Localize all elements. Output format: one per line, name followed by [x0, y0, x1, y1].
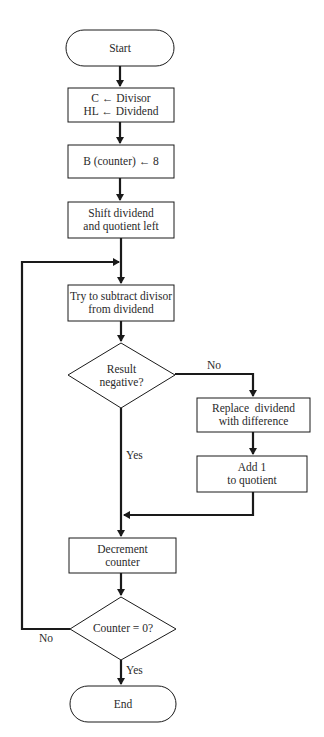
subtract-line2: from dividend [88, 303, 153, 316]
start-node: Start [66, 30, 174, 66]
shift-line1: Shift dividend [88, 207, 154, 220]
subtract-line1: Try to subtract divisor [70, 290, 172, 303]
add1-node: Add 1 to quotient [197, 456, 307, 492]
shift-line2: and quotient left [83, 220, 158, 233]
arrow-negative-no-to-replace [175, 374, 253, 396]
counter-no-label: No [39, 632, 53, 644]
counter-zero-label: Counter = 0? [93, 622, 153, 635]
decrement-node: Decrement counter [69, 538, 176, 573]
replace-node: Replace dividend with difference [197, 398, 310, 432]
init-regs-node: C ← Divisor HL ← Dividend [68, 88, 174, 122]
init-counter-label: B (counter) ← 8 [83, 155, 159, 168]
add1-line2: to quotient [227, 474, 277, 487]
start-label: Start [109, 42, 131, 55]
init-counter-node: B (counter) ← 8 [68, 145, 174, 178]
negative-line2: negative? [99, 376, 143, 389]
decrement-line1: Decrement [97, 543, 147, 556]
arrow-add1-to-merge [124, 492, 253, 515]
replace-line1: Replace dividend [212, 402, 295, 415]
init-regs-line2: HL ← Dividend [84, 105, 159, 118]
counter-zero-node: Counter = 0? [70, 597, 176, 660]
replace-line2: with difference [219, 415, 289, 428]
negative-node: Result negative? [68, 343, 175, 408]
end-node: End [70, 686, 176, 722]
counter-yes-label: Yes [126, 664, 143, 676]
init-regs-line1: C ← Divisor [91, 92, 150, 105]
negative-line1: Result [107, 363, 136, 376]
decrement-line2: counter [105, 556, 139, 569]
add1-line1: Add 1 [238, 461, 266, 474]
end-label: End [114, 698, 133, 711]
negative-yes-label: Yes [126, 449, 143, 461]
subtract-node: Try to subtract divisor from dividend [68, 285, 174, 321]
negative-no-label: No [207, 359, 221, 371]
shift-node: Shift dividend and quotient left [68, 202, 174, 238]
